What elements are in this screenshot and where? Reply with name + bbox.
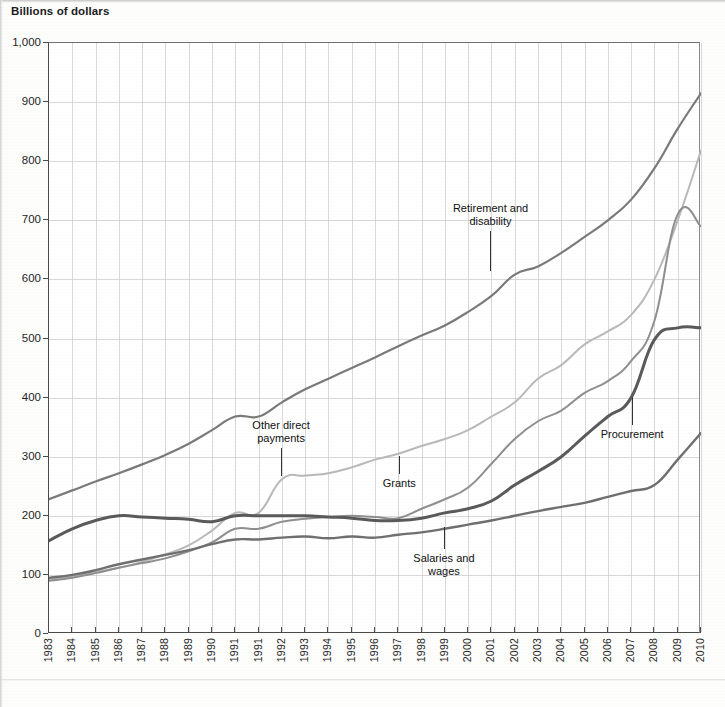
y-axis-tick-label: 800 [22, 154, 41, 166]
y-axis-tick-mark [43, 42, 48, 43]
x-axis-tick-label: 2009 [671, 638, 683, 662]
x-axis-tick-mark [653, 627, 654, 633]
x-axis-tick-label: 1994 [321, 638, 333, 662]
series-label: Procurement [601, 428, 664, 441]
y-axis-tick-mark [43, 101, 48, 102]
y-axis-tick-mark [43, 338, 48, 339]
x-axis-tick-label: 1985 [89, 638, 101, 662]
y-axis-tick-mark [43, 515, 48, 516]
series-label-line: Grants [383, 477, 416, 490]
annotation-leader-line [632, 397, 633, 425]
x-axis-tick-label: 2005 [578, 638, 590, 662]
x-axis-tick-label: 1988 [158, 638, 170, 662]
y-axis-tick-label: 100 [22, 568, 41, 580]
y-axis-tick-mark [43, 219, 48, 220]
x-axis-tick-mark [327, 627, 328, 633]
scanned-page: Billions of dollars 01002003004005006007… [0, 0, 725, 707]
x-axis-tick-mark [304, 627, 305, 633]
y-axis-tick-label: 500 [22, 332, 41, 344]
x-axis-tick-label: 1998 [415, 638, 427, 662]
x-axis-tick-label: 1990 [205, 638, 217, 662]
x-axis-tick-mark [607, 627, 608, 633]
series-label-line: wages [413, 565, 474, 578]
chart-title: Billions of dollars [11, 5, 109, 17]
x-axis-tick-mark [258, 627, 259, 633]
x-axis-tick-mark [164, 627, 165, 633]
y-axis-tick-label: 400 [22, 391, 41, 403]
x-axis-tick-mark [467, 627, 468, 633]
x-axis-tick-mark [421, 627, 422, 633]
series-label-line: Procurement [601, 428, 664, 441]
y-axis-tick-label: 0 [35, 627, 41, 639]
y-axis-tick-label: 200 [22, 509, 41, 521]
x-axis-tick-label: 1999 [438, 638, 450, 662]
x-axis-tick-label: 2000 [461, 638, 473, 662]
x-axis-tick-label: 2002 [508, 638, 520, 662]
series-label-line: Retirement and [453, 202, 528, 215]
x-axis: 1983198419851986198719881989199019911991… [48, 633, 700, 703]
x-axis-tick-mark [118, 627, 119, 633]
gridline-vertical [701, 43, 702, 632]
series-label: Other directpayments [252, 419, 309, 445]
x-axis-tick-mark [95, 627, 96, 633]
x-axis-tick-label: 1991 [228, 638, 240, 662]
y-axis-tick-label: 1,000 [12, 36, 41, 48]
x-axis-tick-label: 2001 [484, 638, 496, 662]
series-label: Retirement anddisability [453, 202, 528, 228]
x-axis-tick-label: 1987 [135, 638, 147, 662]
x-axis-tick-mark [700, 627, 701, 633]
annotation-leader-line [490, 231, 491, 271]
y-axis-tick-label: 900 [22, 95, 41, 107]
y-axis-tick-label: 300 [22, 450, 41, 462]
x-axis-tick-mark [351, 627, 352, 633]
x-axis-tick-mark [630, 627, 631, 633]
x-axis-tick-label: 2008 [647, 638, 659, 662]
x-axis-tick-mark [490, 627, 491, 633]
x-axis-tick-mark [560, 627, 561, 633]
x-axis-tick-label: 1983 [42, 638, 54, 662]
x-axis-tick-mark [281, 627, 282, 633]
series-label-line: disability [453, 215, 528, 228]
x-axis-tick-label: 2006 [601, 638, 613, 662]
y-axis-tick-mark [43, 574, 48, 575]
x-axis-tick-label: 1989 [182, 638, 194, 662]
x-axis-tick-label: 1996 [368, 638, 380, 662]
x-axis-tick-mark [188, 627, 189, 633]
x-axis-tick-mark [537, 627, 538, 633]
x-axis-tick-label: 1993 [298, 638, 310, 662]
annotation-leader-line [399, 456, 400, 474]
x-axis-tick-mark [141, 627, 142, 633]
x-axis-tick-mark [514, 627, 515, 633]
x-axis-tick-label: 2010 [694, 638, 706, 662]
y-axis-tick-mark [43, 278, 48, 279]
x-axis-tick-mark [211, 627, 212, 633]
series-label-line: Salaries and [413, 552, 474, 565]
x-axis-tick-label: 2007 [624, 638, 636, 662]
series-label-line: payments [252, 432, 309, 445]
series-label: Grants [383, 477, 416, 490]
x-axis-tick-mark [71, 627, 72, 633]
x-axis-tick-mark [374, 627, 375, 633]
scan-edge-left [0, 0, 3, 707]
annotation-leader-line [281, 448, 282, 476]
x-axis-tick-mark [444, 627, 445, 633]
y-axis-tick-label: 600 [22, 272, 41, 284]
y-axis: 01002003004005006007008009001,000 [48, 42, 700, 633]
x-axis-tick-label: 1984 [65, 638, 77, 662]
annotation-leader-line [444, 527, 445, 549]
x-axis-tick-label: 2004 [554, 638, 566, 662]
y-axis-tick-label: 700 [22, 213, 41, 225]
y-axis-tick-mark [43, 397, 48, 398]
x-axis-tick-label: 1992 [275, 638, 287, 662]
x-axis-tick-label: 1991 [252, 638, 264, 662]
x-axis-tick-mark [397, 627, 398, 633]
x-axis-tick-mark [48, 627, 49, 633]
x-axis-tick-mark [234, 627, 235, 633]
x-axis-tick-label: 1986 [112, 638, 124, 662]
x-axis-tick-mark [677, 627, 678, 633]
x-axis-tick-label: 1995 [345, 638, 357, 662]
x-axis-tick-mark [584, 627, 585, 633]
x-axis-tick-label: 2003 [531, 638, 543, 662]
y-axis-tick-mark [43, 456, 48, 457]
y-axis-tick-mark [43, 160, 48, 161]
